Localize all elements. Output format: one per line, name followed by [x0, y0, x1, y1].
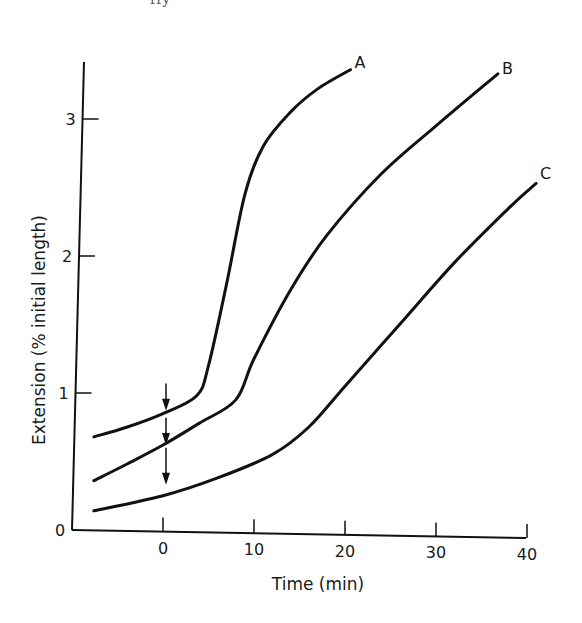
series-line-b	[94, 74, 498, 481]
series-group	[94, 70, 536, 511]
x-tick-label: 20	[335, 542, 355, 561]
series-label-a: A	[354, 53, 365, 72]
y-tick-label: 3	[65, 110, 75, 129]
series-line-c	[94, 183, 536, 510]
y-tick-label: 0	[55, 521, 65, 540]
axes	[72, 62, 526, 538]
y-axis-line	[72, 62, 84, 530]
arrow-down-icon	[162, 399, 170, 411]
y-tick-label: 2	[62, 247, 72, 266]
series-line-a	[94, 70, 351, 437]
x-tick-label: 0	[158, 539, 168, 558]
time-zero-arrows	[162, 383, 170, 484]
x-tick-label: 30	[426, 543, 446, 562]
x-tick-label: 40	[517, 545, 537, 564]
arrow-down-icon	[162, 473, 170, 485]
x-axis-label: Time (min)	[271, 574, 364, 594]
x-tick-label: 10	[244, 540, 264, 559]
series-label-b: B	[502, 59, 513, 78]
y-axis-label: Extension (% initial length)	[29, 215, 49, 445]
x-axis-line	[72, 530, 526, 538]
x-ticks: 010203040	[158, 518, 537, 564]
line-chart: 0123 010203040 Extension (% initial leng…	[0, 0, 582, 623]
series-label-c: C	[540, 164, 551, 183]
y-tick-label: 1	[58, 384, 68, 403]
